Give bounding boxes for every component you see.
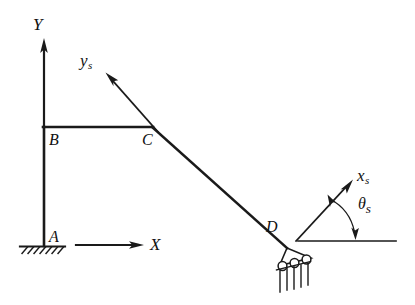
angle-theta-label-main: θ <box>358 195 366 212</box>
global-x-axis-label: X <box>150 236 160 253</box>
global-y-axis <box>40 38 48 127</box>
frame-diagram-canvas <box>0 0 415 305</box>
angle-theta-arc <box>328 195 359 241</box>
angle-theta-arc-path <box>330 199 355 232</box>
local-ys-axis-label-sub: s <box>88 59 92 71</box>
node-a-label: A <box>49 229 59 245</box>
local-ys-axis-shaft <box>113 81 158 132</box>
frame-structure <box>43 127 287 248</box>
angle-theta-arc-arrowhead <box>351 228 359 241</box>
local-xs-axis-shaft <box>296 187 346 241</box>
global-x-axis <box>76 241 144 249</box>
global-y-axis-label: Y <box>33 16 42 33</box>
local-ys-axis-label: ys <box>80 52 92 71</box>
support-a <box>20 247 65 254</box>
frame-diagram-figure: Y X A B C D ys xs θs <box>0 0 415 305</box>
local-xs-axis-label: xs <box>357 167 369 186</box>
local-ys-axis <box>106 73 159 133</box>
local-xs-axis-label-main: x <box>357 166 365 185</box>
support-a-hatching <box>22 247 64 254</box>
local-ys-axis-label-main: y <box>80 51 88 70</box>
angle-theta-label-sub: s <box>366 201 371 216</box>
node-b-label: B <box>49 132 59 148</box>
node-d-label: D <box>266 219 278 235</box>
node-c-label: C <box>142 132 153 148</box>
support-d <box>277 248 312 292</box>
local-xs-axis-label-sub: s <box>365 174 369 186</box>
angle-theta-label: θs <box>358 196 371 216</box>
